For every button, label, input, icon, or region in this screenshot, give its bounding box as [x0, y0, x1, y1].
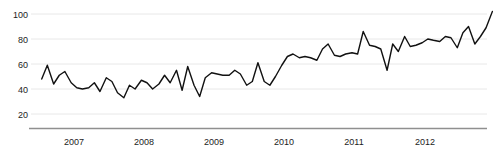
data-series-line — [42, 12, 493, 98]
y-tick-label-20: 20 — [2, 110, 28, 120]
y-tick-label-80: 80 — [2, 35, 28, 45]
chart-plot-area — [0, 0, 493, 155]
line-chart: 100 80 60 40 20 2007 2008 2009 2010 2011… — [0, 0, 493, 155]
y-tick-label-100: 100 — [2, 10, 28, 20]
y-tick-label-40: 40 — [2, 85, 28, 95]
x-tick-label-2010: 2010 — [264, 137, 304, 147]
x-tick-label-2008: 2008 — [124, 137, 164, 147]
y-tick-label-60: 60 — [2, 60, 28, 70]
x-tick-label-2007: 2007 — [54, 137, 94, 147]
x-tick-label-2012: 2012 — [405, 137, 445, 147]
x-tick-label-2011: 2011 — [334, 137, 374, 147]
x-tick-label-2009: 2009 — [194, 137, 234, 147]
